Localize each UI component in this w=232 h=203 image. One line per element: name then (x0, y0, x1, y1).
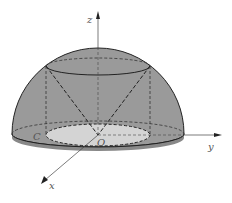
z-axis-label: z (86, 14, 93, 25)
z-axis-arrow-icon (96, 11, 100, 19)
y-axis-arrow-icon (214, 133, 222, 137)
hemisphere-diagram: z y x O C (0, 0, 232, 203)
point-c-label: C (33, 131, 41, 142)
origin-label: O (97, 137, 105, 148)
y-axis-label: y (207, 141, 214, 152)
x-axis-arrow-icon (41, 176, 48, 184)
x-axis-label: x (49, 180, 55, 191)
